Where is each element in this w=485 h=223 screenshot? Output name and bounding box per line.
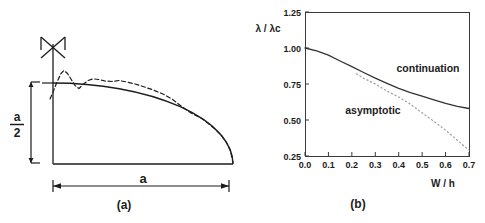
depth-fraction-numerator: a [14, 110, 21, 124]
x-tick-label: 0.6 [439, 160, 452, 170]
x-tick-label: 0.0 [299, 160, 312, 170]
y-tick-label: 1.00 [283, 44, 301, 54]
x-axis-title: W / h [431, 178, 455, 189]
depth-dimension [29, 82, 41, 163]
x-tick-label: 0.5 [416, 160, 429, 170]
depth-fraction-denominator: 2 [14, 126, 21, 140]
y-tick-label: 0.50 [283, 116, 301, 126]
y-axis-title: λ / λc [255, 23, 280, 34]
x-tick-label: 0.3 [369, 160, 382, 170]
panel-a-caption: (a) [117, 198, 132, 212]
y-tick-label: 1.25 [283, 8, 301, 18]
annotation-asymptotic: asymptotic [345, 104, 401, 116]
x-tick-label: 0.2 [346, 160, 359, 170]
annotation-continuation: continuation [397, 62, 460, 74]
width-dimension-label: a [139, 171, 147, 186]
panel-b-plot: 0.00.10.20.30.40.50.60.70.250.500.751.00… [242, 0, 485, 223]
plot-content: 0.00.10.20.30.40.50.60.70.250.500.751.00… [283, 8, 475, 171]
series-continuation [305, 48, 469, 109]
x-tick-label: 0.4 [392, 160, 405, 170]
x-tick-label: 0.1 [322, 160, 335, 170]
x-tick-label: 0.7 [463, 160, 476, 170]
y-tick-label: 0.25 [283, 152, 301, 162]
panel-a-diagram: a 2 a (a) [0, 0, 242, 223]
panel-b-caption: (b) [350, 197, 365, 211]
figure-container: a 2 a (a) 0.00.10.20.30.40.50.60.70.250.… [0, 0, 485, 223]
y-tick-label: 0.75 [283, 80, 301, 90]
crack-front-solid-curve [53, 83, 233, 164]
